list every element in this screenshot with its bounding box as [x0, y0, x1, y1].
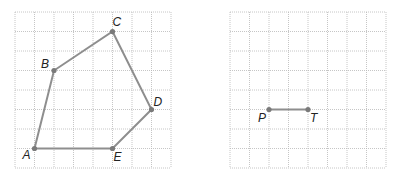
point-b — [51, 68, 56, 73]
point-a — [32, 146, 37, 151]
geometry-diagram: ABCDE PT — [0, 0, 399, 183]
point-label-a: A — [22, 148, 31, 162]
grid — [15, 12, 171, 168]
point-label-b: B — [41, 57, 49, 71]
point-label-e: E — [114, 150, 123, 164]
grid — [230, 12, 386, 168]
point-label-c: C — [113, 15, 122, 29]
point-label-t: T — [310, 111, 319, 125]
point-p — [266, 107, 271, 112]
left-grid-figure-pentagon-abcde: ABCDE — [15, 12, 171, 168]
point-c — [110, 29, 115, 34]
right-grid-figure-segment-pt: PT — [230, 12, 386, 168]
point-label-p: P — [258, 111, 266, 125]
point-label-d: D — [154, 95, 163, 109]
